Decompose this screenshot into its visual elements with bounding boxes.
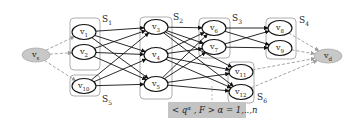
node-v1: v1 xyxy=(72,25,96,40)
node-vs: vs xyxy=(22,48,50,62)
edge xyxy=(226,47,268,48)
edge xyxy=(94,59,146,81)
node-vd: vd xyxy=(314,49,342,63)
edge xyxy=(94,31,145,49)
node-v10: v10 xyxy=(72,79,96,94)
graph-diagram: S1S5S2S3S4S6 vsvdv1v2v10v3v4v5v6v7v8v9v1… xyxy=(0,0,361,125)
node-v6: v6 xyxy=(202,21,226,36)
edge xyxy=(163,34,208,77)
solid-edges xyxy=(91,27,269,91)
set-label-S1: S1 xyxy=(102,14,112,26)
edge xyxy=(96,28,144,31)
set-label-S3: S3 xyxy=(232,13,242,25)
set-label-S4: S4 xyxy=(299,15,309,27)
dashed-edge xyxy=(289,33,319,51)
dashed-edge xyxy=(253,58,315,69)
node-v8: v8 xyxy=(268,21,292,36)
set-label-S2: S2 xyxy=(173,12,183,24)
edge xyxy=(96,52,144,54)
set-label-S5: S5 xyxy=(102,94,112,106)
dashed-edge xyxy=(45,61,76,81)
node-v11: v11 xyxy=(229,65,253,80)
node-v9: v9 xyxy=(268,41,292,56)
dashed-edge xyxy=(251,60,317,87)
node-v2: v2 xyxy=(72,45,96,60)
node-v5: v5 xyxy=(144,77,168,92)
node-v4: v4 xyxy=(144,48,168,63)
edge xyxy=(168,27,202,28)
set-label-S6: S6 xyxy=(257,92,267,104)
node-v12: v12 xyxy=(229,85,253,100)
edge xyxy=(96,84,144,85)
node-v7: v7 xyxy=(202,40,226,55)
dashed-edge xyxy=(292,50,315,54)
node-v3: v3 xyxy=(144,20,168,35)
edge xyxy=(95,35,146,51)
edge xyxy=(168,74,230,83)
dashed-edge xyxy=(50,53,72,54)
edge xyxy=(168,85,229,91)
edge xyxy=(94,56,146,79)
formula-text: < qα , F > α = 1,..,n xyxy=(172,105,257,115)
